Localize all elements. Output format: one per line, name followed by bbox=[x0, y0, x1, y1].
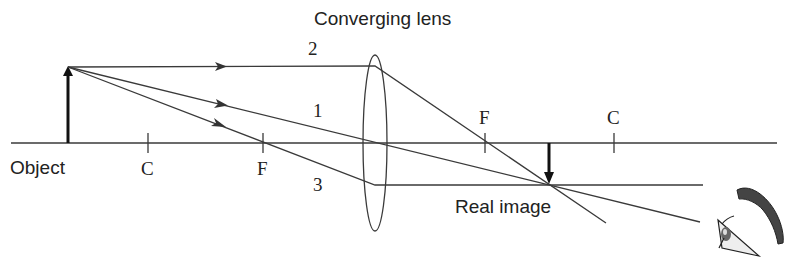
label-f-right: F bbox=[479, 107, 490, 128]
eye-icon bbox=[718, 188, 783, 256]
label-ray-2: 2 bbox=[308, 38, 318, 59]
label-f-left: F bbox=[257, 158, 268, 179]
label-ray-3: 3 bbox=[313, 174, 323, 195]
converging-lens-ray-diagram: Converging lens 2 1 3 Object C F F C Rea… bbox=[0, 0, 791, 263]
label-object: Object bbox=[10, 157, 66, 178]
label-real-image: Real image bbox=[455, 196, 551, 217]
lens-title: Converging lens bbox=[314, 8, 451, 29]
label-c-left: C bbox=[141, 158, 154, 179]
label-c-right: C bbox=[607, 107, 620, 128]
label-ray-1: 1 bbox=[313, 100, 323, 121]
